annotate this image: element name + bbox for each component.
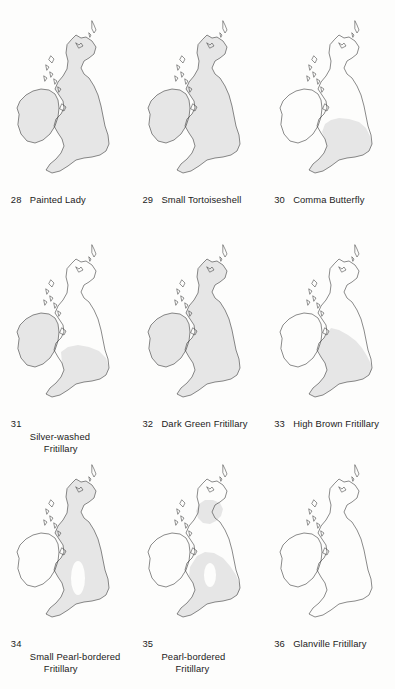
map-label-34-line2: Fritillary xyxy=(30,663,129,676)
map-caption-33: 33 High Brown Fritillary xyxy=(266,418,392,431)
map-number-36: 36 xyxy=(274,638,291,651)
shading-layer-35 xyxy=(177,500,240,617)
shade-great-britain xyxy=(46,479,109,617)
map-label-35: Pearl-bordered Fritillary xyxy=(159,638,260,688)
shade-ireland xyxy=(148,89,190,143)
coastline-36 xyxy=(280,465,372,617)
map-number-28: 28 xyxy=(11,194,28,207)
map-label-34: Small Pearl-bordered Fritillary xyxy=(28,638,129,688)
map-label-35-line1: Pearl-bordered xyxy=(161,651,225,662)
map-caption-34: 34 Small Pearl-bordered Fritillary xyxy=(3,638,129,688)
map-cell-34: 34 Small Pearl-bordered Fritillary xyxy=(0,450,132,689)
butterfly-distribution-figure: 28 Painted Lady xyxy=(0,0,395,689)
map-caption-35: 35 Pearl-bordered Fritillary xyxy=(134,638,260,688)
shade-gap-midlands xyxy=(204,563,216,587)
distribution-map-28 xyxy=(6,16,126,188)
map-cell-35: 35 Pearl-bordered Fritillary xyxy=(132,450,264,689)
map-cell-29: 29 Small Tortoiseshell xyxy=(132,0,264,228)
shade-south-england-wales xyxy=(309,118,372,173)
map-caption-30: 30 Comma Butterfly xyxy=(266,194,392,207)
map-label-36: Glanville Fritillary xyxy=(291,638,392,651)
map-number-35: 35 xyxy=(142,638,159,651)
shade-england-wales xyxy=(309,328,372,397)
map-cell-30: 30 Comma Butterfly xyxy=(263,0,395,228)
map-cell-33: 33 High Brown Fritillary xyxy=(263,228,395,450)
shade-ireland xyxy=(17,89,59,143)
map-label-34-line1: Small Pearl-bordered xyxy=(30,651,121,662)
map-cell-28: 28 Painted Lady xyxy=(0,0,132,228)
distribution-map-29 xyxy=(137,16,257,188)
map-label-33: High Brown Fritillary xyxy=(291,418,392,431)
map-cell-31: 31 Silver-washed Fritillary xyxy=(0,228,132,450)
distribution-map-35 xyxy=(137,460,257,632)
map-number-31: 31 xyxy=(11,418,28,431)
map-number-30: 30 xyxy=(274,194,291,207)
map-caption-32: 32 Dark Green Fritillary xyxy=(134,418,260,431)
map-number-32: 32 xyxy=(142,418,159,431)
distribution-map-33 xyxy=(269,240,389,412)
distribution-map-31 xyxy=(6,240,126,412)
shade-gap-midlands xyxy=(71,561,85,595)
map-cell-36: 36 Glanville Fritillary xyxy=(263,450,395,689)
shade-central-scotland xyxy=(196,500,223,524)
map-number-29: 29 xyxy=(142,194,159,207)
map-label-32: Dark Green Fritillary xyxy=(159,418,260,431)
shade-ireland xyxy=(148,313,190,367)
map-label-35-line2: Fritillary xyxy=(161,663,260,676)
map-label-28: Painted Lady xyxy=(28,194,129,207)
shading-layer-29 xyxy=(148,35,240,173)
map-caption-28: 28 Painted Lady xyxy=(3,194,129,207)
distribution-map-34 xyxy=(6,460,126,632)
distribution-map-36 xyxy=(269,460,389,632)
map-caption-36: 36 Glanville Fritillary xyxy=(266,638,392,651)
distribution-map-30 xyxy=(269,16,389,188)
shading-layer-30 xyxy=(309,118,372,173)
shading-layer-32 xyxy=(148,259,240,397)
map-label-31-line1: Silver-washed xyxy=(30,431,90,442)
map-number-33: 33 xyxy=(274,418,291,431)
map-cell-32: 32 Dark Green Fritillary xyxy=(132,228,264,450)
shading-layer-34 xyxy=(46,479,109,617)
map-number-34: 34 xyxy=(11,638,28,651)
map-label-29: Small Tortoiseshell xyxy=(159,194,260,207)
distribution-map-32 xyxy=(137,240,257,412)
map-label-30: Comma Butterfly xyxy=(291,194,392,207)
shading-layer-28 xyxy=(17,35,109,173)
map-caption-29: 29 Small Tortoiseshell xyxy=(134,194,260,207)
shade-ireland xyxy=(17,313,59,367)
shading-layer-33 xyxy=(309,328,372,397)
map-grid: 28 Painted Lady xyxy=(0,0,395,689)
